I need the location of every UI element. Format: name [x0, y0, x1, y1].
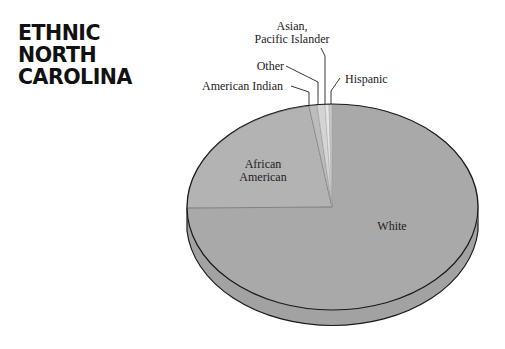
label-african-american-line2: American	[239, 170, 286, 184]
label-asian-line1: Asian,	[277, 19, 308, 33]
label-other: Other	[257, 59, 284, 73]
leader-american-indian	[291, 86, 309, 106]
label-american-indian: American Indian	[202, 79, 283, 93]
label-african-american-line1: African	[245, 157, 282, 171]
pie-chart: Asian, Pacific Islander Other American I…	[0, 0, 505, 349]
label-asian-line2: Pacific Islander	[255, 32, 330, 46]
leader-other	[286, 66, 318, 105]
label-white: White	[377, 219, 406, 233]
leader-asian	[321, 48, 325, 104]
leader-hispanic	[331, 78, 340, 104]
label-hispanic: Hispanic	[345, 72, 388, 86]
